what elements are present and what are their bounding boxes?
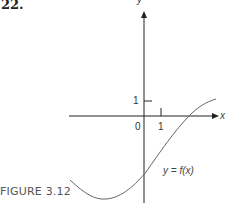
x-axis-arrow-icon bbox=[212, 113, 219, 119]
y-tick-label: 1 bbox=[133, 95, 139, 106]
x-tick-label: 1 bbox=[158, 121, 164, 132]
y-axis-label: y bbox=[136, 0, 143, 5]
function-curve bbox=[70, 99, 216, 199]
function-graph: y x 1 1 0 y = f(x) bbox=[0, 0, 226, 205]
y-axis-arrow-icon bbox=[141, 11, 147, 18]
figure-caption: FIGURE 3.12 bbox=[0, 185, 71, 198]
x-axis-label: x bbox=[219, 110, 226, 121]
curve-label: y = f(x) bbox=[162, 165, 194, 176]
origin-label: 0 bbox=[135, 121, 141, 132]
